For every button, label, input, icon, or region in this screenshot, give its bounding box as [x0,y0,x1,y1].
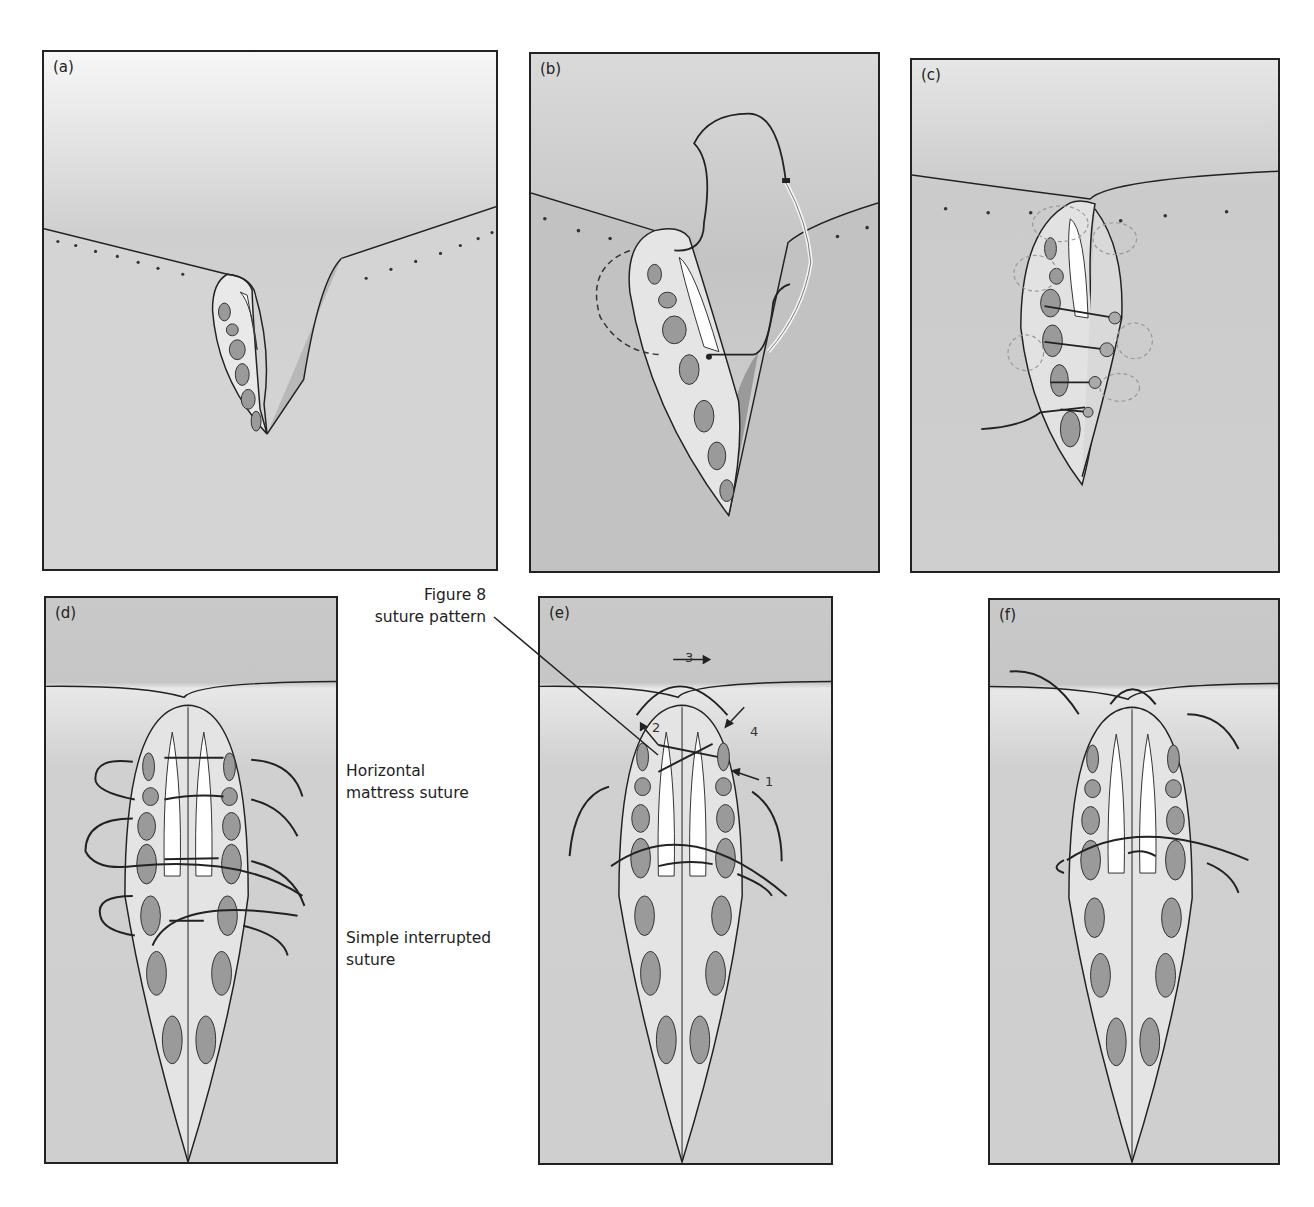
illustration-needle-pass [531,54,878,571]
panel-e: (e) 3 2 4 1 [538,596,833,1165]
panel-label-f: (f) [999,606,1016,624]
step-number-1: 1 [765,774,773,789]
panel-b: (b) [529,52,880,573]
step-number-3: 3 [685,650,693,665]
panel-label-a: (a) [53,58,74,76]
step-number-4: 4 [750,724,758,739]
annotation-simple-interrupted: Simple interrupted suture [346,927,491,971]
annotation-horizontal-mattress: Horizontal mattress suture [346,760,469,804]
panel-label-e: (e) [549,604,570,622]
panel-label-b: (b) [540,60,561,78]
annotation-simple-line1: Simple interrupted [346,927,491,949]
illustration-mattress-and-interrupted-sutures [46,598,336,1162]
annotation-figure-8-line1: Figure 8 [362,584,486,606]
panel-a: (a) [42,50,498,571]
annotation-figure-8-line2: suture pattern [362,606,486,628]
panel-d: (d) [44,596,338,1164]
panel-label-c: (c) [921,66,941,84]
annotation-figure-8: Figure 8 suture pattern [362,584,486,628]
step-number-2: 2 [652,720,660,735]
panel-c: (c) [910,58,1280,573]
illustration-wedge-laceration [44,52,496,569]
panel-label-d: (d) [55,604,76,622]
illustration-sutures-placed [912,60,1278,571]
illustration-figure-8-suture [540,598,831,1163]
panel-f: (f) [988,598,1280,1165]
annotation-simple-line2: suture [346,949,491,971]
annotation-horizontal-line2: mattress suture [346,782,469,804]
illustration-completed-closure [990,600,1278,1163]
annotation-horizontal-line1: Horizontal [346,760,469,782]
